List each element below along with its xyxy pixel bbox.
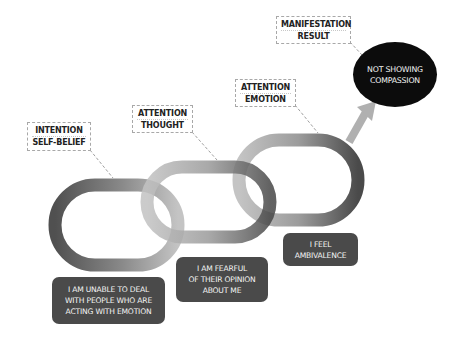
statement-line: OF THEIR OPINION [180,274,264,285]
statement-box-1: I AM UNABLE TO DEAL WITH PEOPLE WHO ARE … [52,277,165,324]
stage-label-bottom: SELF-BELIEF [32,137,86,148]
statement-line: ABOUT ME [180,285,264,296]
stage-label-top: ATTENTION [137,108,188,120]
stage-label-thought: ATTENTION THOUGHT [132,105,193,133]
stage-label-top: INTENTION [32,125,86,137]
statement-line: WITH PEOPLE WHO ARE [56,295,161,306]
statement-line: ACTING WITH EMOTION [56,306,161,317]
stage-label-bottom: RESULT [281,31,346,42]
result-ellipse: NOT SHOWING COMPASSION [353,42,437,107]
stage-label-emotion: ATTENTION EMOTION [235,79,296,107]
statement-line: I FEEL [287,239,354,250]
stage-label-manifestation: MANIFESTATION RESULT [276,16,351,44]
result-line: NOT SHOWING [367,64,423,75]
arrow-icon [349,101,376,142]
statement-box-3: I FEEL AMBIVALENCE [283,233,358,266]
stage-label-bottom: EMOTION [240,94,291,105]
leader-lines [90,42,362,178]
stage-label-top: ATTENTION [240,82,291,94]
statement-line: I AM UNABLE TO DEAL [56,284,161,295]
stage-label-bottom: THOUGHT [137,120,188,131]
statement-line: I AM FEARFUL [180,263,264,274]
stage-label-top: MANIFESTATION [281,19,346,31]
stage-label-intention: INTENTION SELF-BELIEF [27,122,91,151]
statement-line: AMBIVALENCE [287,250,354,261]
statement-box-2: I AM FEARFUL OF THEIR OPINION ABOUT ME [176,257,268,302]
result-line: COMPASSION [370,75,420,86]
